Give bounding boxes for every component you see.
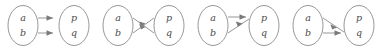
edge-b-to-q [38,30,53,36]
node-label-a: a [305,12,311,23]
node-label-a: a [115,12,121,23]
node-label-q: q [71,27,77,38]
diagram-panel-1: a b p q [0,0,95,51]
node-label-p: p [356,12,362,23]
diagram-panel-2: a b p q [95,0,190,51]
edge-b-to-q [323,30,341,36]
node-label-b: b [20,27,26,38]
diagram-panel-4: a b p q [285,0,380,51]
edge-a-to-q [323,18,344,32]
node-label-a: a [20,12,26,23]
diagram-panel-3: a b p q [190,0,285,51]
node-label-p: p [261,12,267,23]
node-label-b: b [115,27,121,38]
node-label-p: p [71,12,77,23]
node-label-q: q [356,27,362,38]
node-label-q: q [261,27,267,38]
node-label-p: p [166,12,172,23]
node-label-a: a [210,12,216,23]
node-label-q: q [166,27,172,38]
edge-a-to-p [38,15,53,21]
edge-b-to-p [228,19,249,33]
node-label-b: b [305,27,311,38]
edge-a-to-p [228,14,246,20]
function-diagram-figure: a b p q a b p q [0,0,380,51]
node-label-b: b [210,27,216,38]
